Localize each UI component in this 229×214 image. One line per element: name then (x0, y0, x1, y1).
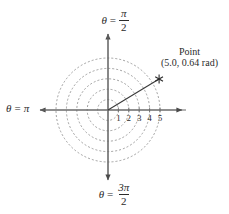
radial-tick-label-2: 2 (124, 113, 134, 123)
fraction-numerator-bottom: 3π (116, 182, 131, 194)
polar-coordinate-figure: theta = 0) --> theta = 3pi/2) --> θ = (0, 0, 229, 214)
axis-label-theta-3pi-over-2: θ = 3π 2 (80, 182, 150, 207)
theta-symbol-bottom: θ (99, 189, 104, 200)
equals-symbol-top: = (110, 15, 116, 26)
equals-symbol-left: = (14, 103, 20, 114)
fraction-3pi-over-2: 3π 2 (116, 182, 131, 207)
axis-label-theta-pi: θ = π (6, 103, 29, 114)
fraction-denominator-top: 2 (119, 20, 129, 33)
radius-line (108, 79, 159, 110)
fraction-denominator-bottom: 2 (119, 194, 129, 207)
fraction-numerator-top: π (119, 8, 129, 20)
pi-symbol-left: π (24, 103, 30, 114)
axis-label-theta-pi-over-2: θ = π 2 (80, 8, 150, 33)
point-annotation-title: Point (150, 47, 229, 57)
theta-symbol-top: θ (101, 15, 106, 26)
radial-tick-label-3: 3 (134, 113, 144, 123)
radial-tick-label-4: 4 (145, 113, 155, 123)
fraction-pi-over-2: π 2 (119, 8, 129, 33)
equals-symbol-bottom: = (107, 189, 113, 200)
radial-tick-label-1: 1 (113, 113, 123, 123)
point-annotation-coordinates: (5.0, 0.64 rad) (150, 58, 229, 68)
radial-tick-label-5: 5 (155, 113, 165, 123)
theta-symbol-left: θ (6, 103, 11, 114)
point-marker-star (155, 75, 163, 84)
point-annotation: Point (5.0, 0.64 rad) (150, 47, 229, 68)
